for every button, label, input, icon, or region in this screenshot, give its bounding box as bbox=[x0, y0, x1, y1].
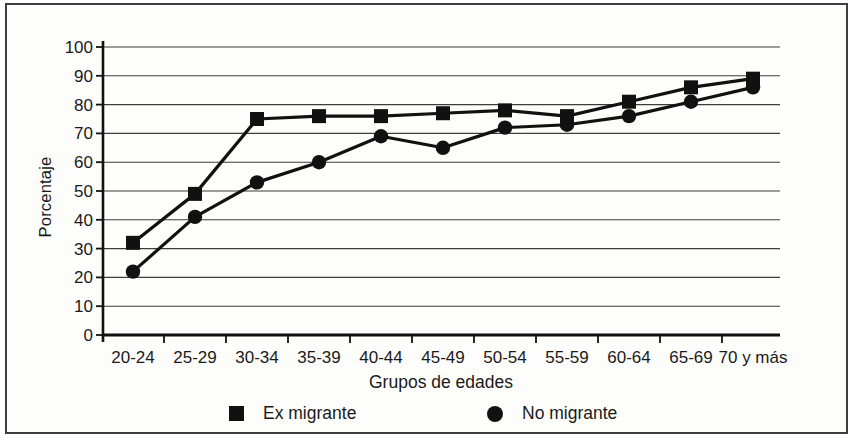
figure: 010203040506070809010020-2425-2930-3435-… bbox=[0, 0, 857, 447]
data-point-circle-no-migrante bbox=[746, 80, 760, 94]
y-axis-title: Porcentaje bbox=[36, 157, 55, 238]
x-tick-label: 20-24 bbox=[111, 348, 154, 367]
data-point-circle-no-migrante bbox=[374, 129, 388, 143]
data-point-square-ex-migrante bbox=[126, 236, 140, 250]
data-point-square-ex-migrante bbox=[498, 103, 512, 117]
x-axis-title: Grupos de edades bbox=[369, 372, 513, 393]
y-tick-label: 30 bbox=[74, 240, 93, 259]
data-point-circle-no-migrante bbox=[126, 264, 140, 278]
y-tick-label: 10 bbox=[74, 297, 93, 316]
x-tick-label: 45-49 bbox=[421, 348, 464, 367]
x-tick-label: 40-44 bbox=[359, 348, 402, 367]
y-tick-label: 50 bbox=[74, 182, 93, 201]
y-tick-label: 40 bbox=[74, 211, 93, 230]
x-tick-label: 25-29 bbox=[173, 348, 216, 367]
legend-label-ex-migrante: Ex migrante bbox=[263, 403, 356, 424]
data-point-circle-no-migrante bbox=[312, 155, 326, 169]
data-point-circle-no-migrante bbox=[622, 109, 636, 123]
data-point-square-ex-migrante bbox=[250, 112, 264, 126]
data-point-circle-no-migrante bbox=[250, 175, 264, 189]
x-tick-label: 60-64 bbox=[607, 348, 650, 367]
data-point-circle-no-migrante bbox=[684, 95, 698, 109]
data-point-square-ex-migrante bbox=[188, 187, 202, 201]
series-line-ex-migrante bbox=[133, 79, 753, 243]
y-tick-label: 90 bbox=[74, 67, 93, 86]
x-tick-label: 55-59 bbox=[545, 348, 588, 367]
data-point-square-ex-migrante bbox=[436, 106, 450, 120]
x-tick-label: 35-39 bbox=[297, 348, 340, 367]
x-tick-label: 30-34 bbox=[235, 348, 278, 367]
data-point-square-ex-migrante bbox=[684, 80, 698, 94]
data-point-circle-no-migrante bbox=[436, 141, 450, 155]
y-tick-label: 80 bbox=[74, 96, 93, 115]
y-tick-label: 100 bbox=[65, 38, 93, 57]
data-point-circle-no-migrante bbox=[188, 210, 202, 224]
legend-item-ex-migrante: Ex migrante bbox=[229, 403, 356, 424]
data-point-square-ex-migrante bbox=[374, 109, 388, 123]
y-tick-label: 0 bbox=[84, 326, 93, 345]
data-point-circle-no-migrante bbox=[498, 120, 512, 134]
y-tick-label: 70 bbox=[74, 124, 93, 143]
y-tick-label: 20 bbox=[74, 268, 93, 287]
x-tick-label: 50-54 bbox=[483, 348, 526, 367]
circle-marker-icon bbox=[487, 406, 503, 422]
data-point-square-ex-migrante bbox=[622, 95, 636, 109]
data-point-square-ex-migrante bbox=[312, 109, 326, 123]
x-tick-label: 70 y más bbox=[719, 348, 788, 367]
legend-item-no-migrante: No migrante bbox=[487, 403, 617, 424]
data-point-circle-no-migrante bbox=[560, 118, 574, 132]
x-tick-label: 65-69 bbox=[669, 348, 712, 367]
square-marker-icon bbox=[229, 406, 244, 421]
legend-label-no-migrante: No migrante bbox=[522, 403, 617, 424]
y-tick-label: 60 bbox=[74, 153, 93, 172]
